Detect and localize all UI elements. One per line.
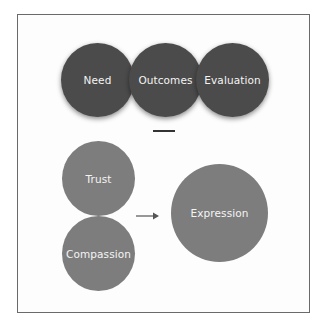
circle-need: Need	[61, 43, 134, 117]
circle-expression-label: Expression	[191, 207, 249, 219]
circle-expression: Expression	[171, 164, 268, 262]
circle-evaluation-label: Evaluation	[204, 74, 260, 86]
circle-evaluation: Evaluation	[196, 43, 269, 117]
circle-outcomes: Outcomes	[129, 43, 202, 117]
circle-trust-label: Trust	[86, 173, 112, 185]
circle-outcomes-label: Outcomes	[138, 74, 192, 86]
circle-compassion: Compassion	[62, 216, 135, 291]
circle-trust: Trust	[62, 141, 135, 216]
circle-need-label: Need	[84, 74, 112, 86]
arrow-right-icon	[136, 211, 160, 221]
separator-line	[153, 130, 175, 132]
circle-compassion-label: Compassion	[66, 248, 131, 260]
